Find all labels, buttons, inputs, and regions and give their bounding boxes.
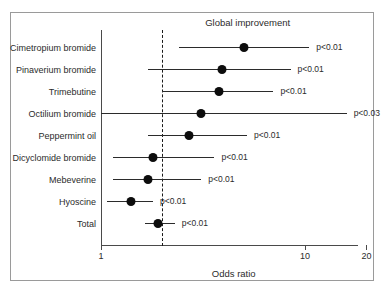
x-tick-1 (101, 245, 102, 250)
x-tick-label-20: 20 (361, 251, 371, 261)
point-estimate-marker (239, 43, 248, 52)
study-row: Trimebutinep<0.01 (0, 81, 384, 103)
point-estimate-marker (197, 109, 206, 118)
x-tick-20 (366, 245, 367, 250)
p-value-label: p<0.03 (354, 107, 380, 120)
point-estimate-marker (217, 65, 226, 74)
p-value-label: p<0.01 (182, 217, 208, 230)
point-estimate-marker (215, 87, 224, 96)
plot-area: Global improvement 11020 Cimetropium bro… (0, 0, 384, 292)
point-estimate-marker (149, 153, 158, 162)
study-row: Octilium bromidep<0.03 (0, 103, 384, 125)
p-value-label: p<0.01 (298, 63, 324, 76)
point-estimate-marker (153, 219, 162, 228)
x-axis-label: Odds ratio (212, 268, 256, 279)
p-value-label: p<0.01 (254, 129, 280, 142)
point-estimate-marker (184, 131, 193, 140)
study-row: Dicyclomide bromidep<0.01 (0, 147, 384, 169)
confidence-interval-line (101, 113, 347, 114)
p-value-label: p<0.01 (208, 173, 234, 186)
x-tick-10 (305, 245, 306, 250)
study-label: Peppermint oil (38, 125, 96, 147)
study-row: Hyoscinep<0.01 (0, 191, 384, 213)
p-value-label: p<0.01 (316, 41, 342, 54)
p-value-label: p<0.01 (221, 151, 247, 164)
confidence-interval-line (113, 179, 201, 180)
study-label: Hyoscine (59, 191, 96, 213)
x-axis-line (101, 245, 358, 246)
x-tick-label-10: 10 (300, 251, 310, 261)
study-label: Octilium bromide (28, 103, 96, 125)
study-label: Trimebutine (49, 81, 96, 103)
point-estimate-marker (144, 175, 153, 184)
study-label: Pinaverium bromide (16, 59, 96, 81)
p-value-label: p<0.01 (160, 195, 186, 208)
study-row: Cimetropium bromidep<0.01 (0, 37, 384, 59)
p-value-label: p<0.01 (280, 85, 306, 98)
study-row: Pinaverium bromidep<0.01 (0, 59, 384, 81)
study-row: Totalp<0.01 (0, 213, 384, 235)
study-label: Dicyclomide bromide (12, 147, 96, 169)
forest-plot-figure: Global improvement 11020 Cimetropium bro… (0, 0, 384, 292)
confidence-interval-line (113, 157, 214, 158)
study-label: Mebeverine (49, 169, 96, 191)
study-label: Total (77, 213, 96, 235)
confidence-interval-line (148, 135, 247, 136)
study-row: Mebeverinep<0.01 (0, 169, 384, 191)
point-estimate-marker (126, 197, 135, 206)
study-row: Peppermint oilp<0.01 (0, 125, 384, 147)
chart-title: Global improvement (205, 17, 290, 28)
study-label: Cimetropium bromide (10, 37, 96, 59)
x-tick-label-1: 1 (98, 251, 103, 261)
